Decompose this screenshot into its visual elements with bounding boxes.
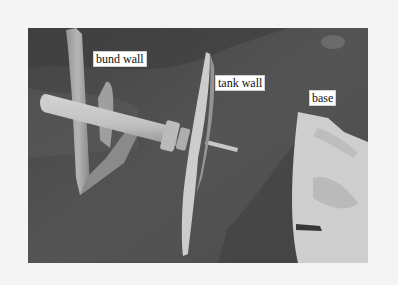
label-bund-wall: bund wall: [93, 51, 147, 67]
photo-scene: [28, 28, 368, 263]
photo: bund wall tank wall base: [28, 28, 368, 263]
label-tank-wall: tank wall: [215, 75, 265, 91]
label-base: base: [309, 90, 336, 106]
